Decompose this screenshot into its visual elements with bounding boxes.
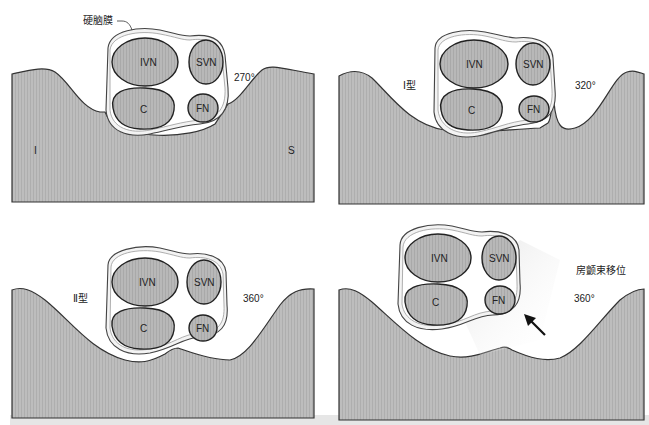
diagram-canvas: IVN SVN C FN 270° I S 硬脑膜 IVN SVN C FN 3…: [0, 0, 649, 425]
label-ivn: IVN: [139, 277, 156, 288]
panel-bottom-right: IVN SVN C FN 360° 房颤束移位: [339, 225, 644, 420]
annotation-leader-line: [117, 21, 132, 30]
panel-top-right: IVN SVN C FN 320° Ⅰ型: [339, 31, 644, 204]
label-fn: FN: [196, 103, 209, 114]
angle-label: 320°: [575, 80, 596, 91]
label-ivn: IVN: [466, 59, 483, 70]
label-fn: FN: [527, 104, 540, 115]
panel-bottom-left: IVN SVN C FN 360° Ⅱ型: [12, 247, 314, 418]
label-svn: SVN: [489, 253, 510, 264]
panel-top-left: IVN SVN C FN 270° I S 硬脑膜: [12, 14, 314, 202]
label-svn: SVN: [523, 59, 544, 70]
type-label: Ⅱ型: [73, 292, 88, 304]
angle-label: 360°: [574, 293, 595, 304]
label-svn: SVN: [194, 277, 215, 288]
type-label: 房颤束移位: [576, 264, 626, 276]
label-c: C: [140, 323, 147, 334]
label-fn: FN: [196, 323, 209, 334]
angle-label: 270°: [234, 72, 255, 83]
angle-label: 360°: [243, 293, 264, 304]
type-label: Ⅰ型: [403, 79, 416, 91]
dura-annotation: 硬脑膜: [83, 14, 113, 26]
side-label-left: I: [34, 145, 37, 156]
label-ivn: IVN: [140, 57, 157, 68]
side-label-right: S: [288, 145, 295, 156]
label-c: C: [140, 104, 147, 115]
label-c: C: [432, 297, 439, 308]
label-c: C: [468, 105, 475, 116]
label-ivn: IVN: [431, 253, 448, 264]
label-fn: FN: [492, 295, 505, 306]
label-svn: SVN: [196, 57, 217, 68]
